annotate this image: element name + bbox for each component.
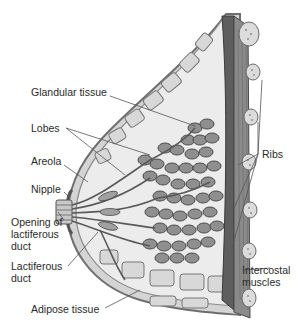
label-nipple: Nipple (31, 183, 61, 195)
label-ribs: Ribs (262, 148, 283, 160)
label-adipose-tissue: Adipose tissue (31, 303, 99, 315)
label-opening-of-lactiferous-duct: Opening of lactiferous duct (11, 216, 62, 252)
label-lobes: Lobes (31, 122, 60, 134)
label-lactiferous-duct: Lactiferous duct (11, 260, 62, 284)
label-areola: Areola (31, 155, 61, 167)
label-glandular-tissue: Glandular tissue (31, 86, 107, 98)
label-intercostal-muscles: Intercostal muscles (242, 264, 290, 288)
